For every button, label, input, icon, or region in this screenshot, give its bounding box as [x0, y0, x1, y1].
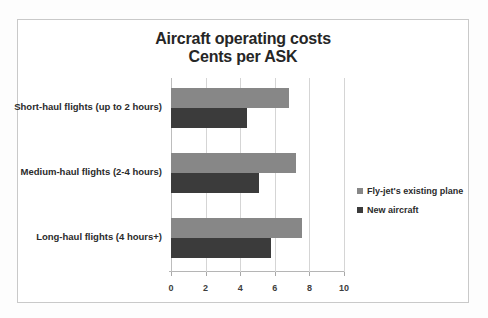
x-tick-label: 4 [238, 283, 243, 293]
chart-legend: Fly-jet's existing planeNew aircraft [357, 186, 467, 224]
x-tick-label: 0 [168, 283, 173, 293]
x-tick-label: 2 [203, 283, 208, 293]
x-tick-label: 6 [272, 283, 277, 293]
legend-label: New aircraft [367, 205, 419, 215]
legend-item[interactable]: New aircraft [357, 205, 467, 215]
chart-frame: Aircraft operating costs Cents per ASK 0… [17, 19, 469, 303]
bar-new-aircraft [171, 108, 247, 128]
bar-existing-plane [171, 88, 289, 108]
tick-mark-6 [275, 272, 276, 276]
tick-mark-8 [309, 272, 310, 276]
bar-new-aircraft [171, 238, 271, 258]
legend-swatch-icon [357, 207, 363, 213]
chart-title: Aircraft operating costs Cents per ASK [18, 30, 468, 66]
category-label: Short-haul flights (up to 2 hours) [14, 101, 162, 112]
legend-swatch-icon [357, 188, 363, 194]
plot-area: 0246810 Short-haul flights (up to 2 hour… [171, 78, 344, 272]
category-label: Long-haul flights (4 hours+) [36, 231, 162, 242]
legend-label: Fly-jet's existing plane [367, 186, 463, 196]
x-tick-label: 10 [339, 283, 349, 293]
tick-mark-2 [206, 272, 207, 276]
x-tick-label: 8 [307, 283, 312, 293]
bar-existing-plane [171, 218, 302, 238]
x-axis-line [169, 271, 345, 272]
tick-mark-4 [240, 272, 241, 276]
bar-group: Medium-haul flights (2-4 hours) [171, 153, 344, 193]
category-label: Medium-haul flights (2-4 hours) [21, 166, 162, 177]
tick-mark-10 [344, 272, 345, 276]
tick-mark-0 [171, 272, 172, 276]
bar-group: Short-haul flights (up to 2 hours) [171, 88, 344, 128]
legend-item[interactable]: Fly-jet's existing plane [357, 186, 467, 196]
bar-group: Long-haul flights (4 hours+) [171, 218, 344, 258]
gridline-10 [344, 78, 345, 272]
chart-subtitle: Cents per ASK [18, 48, 468, 66]
bar-existing-plane [171, 153, 296, 173]
bar-new-aircraft [171, 173, 259, 193]
chart-title-line1: Aircraft operating costs [155, 30, 331, 47]
